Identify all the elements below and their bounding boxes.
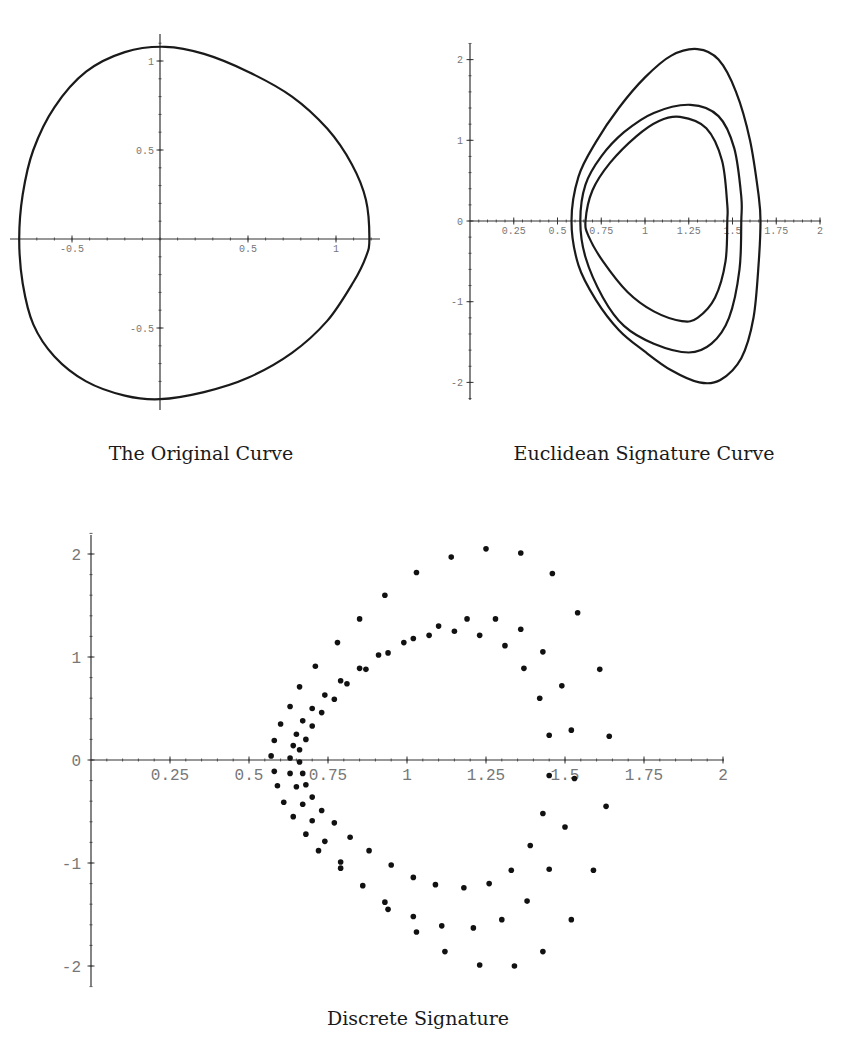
euclidean-signature-plot: 0.250.50.7511.251.51.752210-1-2 [0, 0, 854, 420]
data-point [385, 907, 391, 913]
y-tick-label: -1 [62, 856, 81, 874]
data-point [278, 721, 284, 727]
y-tick-label: 2 [71, 547, 81, 565]
data-point [297, 684, 303, 690]
data-point [309, 794, 315, 800]
data-point [448, 554, 454, 560]
x-tick-label: 2 [718, 767, 728, 785]
data-point [303, 831, 309, 837]
data-point [271, 769, 277, 775]
data-point [309, 723, 315, 729]
x-tick-label: 0.5 [235, 767, 264, 785]
data-point [521, 666, 527, 672]
data-point [316, 848, 322, 854]
data-point [464, 616, 470, 622]
data-point [303, 737, 309, 743]
data-point [287, 771, 293, 777]
data-point [486, 881, 492, 887]
data-point [297, 759, 303, 765]
data-point [309, 706, 315, 712]
data-point [512, 963, 518, 969]
data-point [502, 643, 508, 649]
data-point [319, 808, 325, 814]
x-tick-label: 1.25 [467, 767, 505, 785]
x-tick-label: 2 [817, 226, 823, 237]
data-point [411, 914, 417, 920]
data-point [294, 784, 300, 790]
data-point [603, 804, 609, 810]
data-point [281, 799, 287, 805]
data-point [546, 866, 552, 872]
data-point [297, 747, 303, 753]
data-point [477, 633, 483, 639]
data-point [300, 771, 306, 777]
data-point [303, 782, 309, 788]
y-tick-label: 1 [457, 136, 463, 147]
data-point [550, 571, 556, 577]
data-point [411, 636, 417, 642]
caption-discrete-signature: Discrete Signature [327, 1007, 509, 1029]
data-point [382, 592, 388, 598]
data-point [518, 550, 524, 556]
data-point [290, 814, 296, 820]
data-point [300, 801, 306, 807]
data-point [508, 867, 514, 873]
data-point [376, 652, 382, 658]
data-point [300, 718, 306, 724]
data-point [313, 663, 319, 669]
data-point [537, 695, 543, 701]
x-tick-label: 1 [642, 226, 648, 237]
y-tick-label: 2 [457, 55, 463, 66]
data-point [287, 755, 293, 761]
caption-euclidean-signature: Euclidean Signature Curve [514, 442, 775, 464]
data-point [527, 843, 533, 849]
data-point [271, 738, 277, 744]
data-point [436, 623, 442, 629]
data-point [569, 917, 575, 923]
data-point [546, 732, 552, 738]
data-point [575, 610, 581, 616]
data-point [540, 649, 546, 655]
data-point [338, 865, 344, 871]
data-point [439, 923, 445, 929]
data-point [499, 917, 505, 923]
y-tick-label: 0 [71, 753, 81, 771]
data-point [366, 848, 372, 854]
data-point [287, 704, 293, 710]
data-point [275, 783, 281, 789]
data-point [322, 692, 328, 698]
data-point [344, 681, 350, 687]
data-point [294, 731, 300, 737]
data-point [483, 546, 489, 552]
y-tick-label: -2 [451, 378, 463, 389]
y-tick-label: -1 [451, 297, 463, 308]
data-point [332, 820, 338, 826]
data-point [360, 883, 366, 889]
data-point [442, 949, 448, 955]
data-point [357, 616, 363, 622]
data-point [461, 885, 467, 891]
x-tick-label: 1 [402, 767, 412, 785]
x-tick-label: 1.25 [677, 226, 701, 237]
data-point [322, 839, 328, 845]
data-point [569, 727, 575, 733]
data-point [411, 875, 417, 881]
data-point [338, 859, 344, 865]
data-point [385, 650, 391, 656]
data-point [290, 743, 296, 749]
data-point [572, 776, 578, 782]
data-point [268, 753, 274, 759]
data-point [493, 616, 499, 622]
x-tick-label: 0.5 [548, 226, 566, 237]
data-point [357, 666, 363, 672]
data-point [414, 929, 420, 935]
data-point [335, 640, 341, 646]
x-tick-label: 0.75 [309, 767, 347, 785]
x-tick-label: 0.25 [502, 226, 526, 237]
data-point [332, 696, 338, 702]
data-point [401, 640, 407, 646]
data-point [559, 683, 565, 689]
data-point [319, 710, 325, 716]
data-point [309, 818, 315, 824]
x-tick-label: 0.75 [589, 226, 613, 237]
